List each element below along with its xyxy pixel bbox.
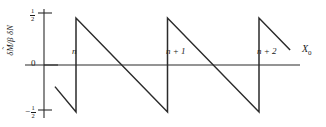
x-axis-label-subscript: 0 bbox=[308, 49, 312, 57]
sawtooth-figure: δ˜M/β δN 1 2 0 − 1 2 n n + 1 n + 2 X0 bbox=[0, 0, 326, 127]
y-axis-label-n: N bbox=[5, 25, 15, 31]
x-tick-label-n-plus-1: n + 1 bbox=[166, 47, 186, 56]
y-axis-label-m-tilde: ˜M bbox=[6, 44, 15, 51]
y-tick-label-zero: 0 bbox=[31, 59, 36, 68]
y-axis-label: δ˜M/β δN bbox=[6, 9, 15, 71]
fraction-numerator: 1 bbox=[30, 8, 35, 15]
fraction-denominator: 2 bbox=[31, 112, 36, 120]
fraction-numerator: 1 bbox=[31, 105, 36, 112]
x-axis-label: X0 bbox=[302, 44, 312, 54]
x-tick-label-n-plus-2: n + 2 bbox=[257, 47, 277, 56]
x-tick-label-n: n bbox=[72, 47, 77, 56]
minus-sign: − bbox=[25, 107, 30, 116]
tilde-accent: ˜ bbox=[1, 44, 9, 51]
y-axis-label-slash-beta: /β bbox=[5, 35, 15, 44]
y-tick-label-half-positive: 1 2 bbox=[30, 6, 35, 22]
fraction-denominator: 2 bbox=[30, 15, 35, 23]
fraction-one-half: 1 2 bbox=[31, 105, 36, 119]
fraction-one-half: 1 2 bbox=[30, 8, 35, 22]
y-axis-label-delta2: δ bbox=[5, 31, 15, 35]
plot-canvas bbox=[0, 0, 326, 127]
y-tick-label-half-negative: − 1 2 bbox=[25, 103, 36, 119]
y-axis-label-delta1: δ bbox=[5, 52, 15, 56]
